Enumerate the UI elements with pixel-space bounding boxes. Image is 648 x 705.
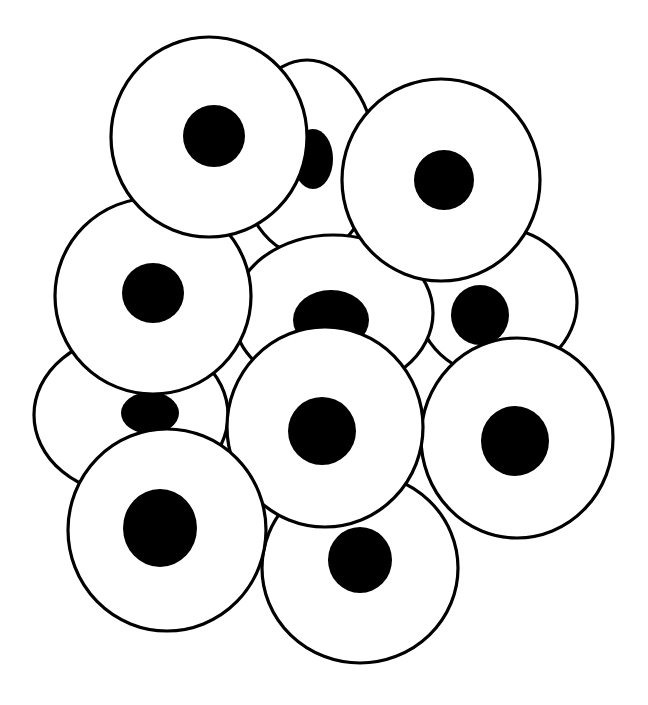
cell-bottom-left	[68, 429, 266, 631]
cell-nucleus	[122, 263, 184, 323]
cell-cluster-illustration	[0, 0, 648, 705]
cell-nucleus	[481, 406, 549, 476]
cell-nucleus	[288, 397, 356, 465]
cell-nucleus	[123, 489, 197, 567]
cell-nucleus	[414, 150, 474, 210]
cell-top-right	[342, 79, 540, 281]
cell-top-left	[111, 37, 307, 237]
cell-right-lower	[421, 338, 613, 538]
cell-nucleus	[451, 285, 509, 345]
cell-nucleus	[328, 527, 392, 593]
cell-nucleus	[183, 105, 245, 167]
